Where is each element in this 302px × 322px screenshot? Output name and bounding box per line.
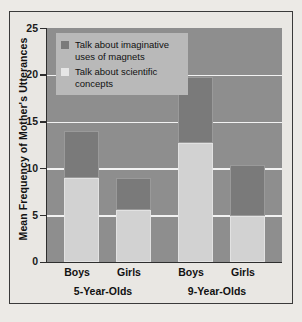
legend-item-imaginative: Talk about imaginative uses of magnets <box>61 39 182 62</box>
x-label-5yr-girls: Girls <box>104 266 154 278</box>
legend-swatch-light-icon <box>61 68 69 76</box>
bar-segment-imaginative <box>116 178 151 210</box>
legend-swatch-dark-icon <box>61 41 69 49</box>
y-tick-label: 25 <box>16 22 38 34</box>
bar-segment-imaginative <box>64 131 99 178</box>
figure: Mean Frequency of Mother's Utterances 25… <box>0 0 302 322</box>
bar-5yr-boys[interactable] <box>64 131 99 262</box>
bar-segment-scientific <box>64 178 99 262</box>
legend-item-scientific: Talk about scientific concepts <box>61 66 182 89</box>
legend: Talk about imaginative uses of magnets T… <box>56 33 188 95</box>
bar-segment-scientific <box>116 210 151 262</box>
y-tick-label: 15 <box>16 115 38 127</box>
group-label-9-year-olds: 9-Year-Olds <box>167 285 267 297</box>
bar-segment-imaginative <box>230 165 265 216</box>
y-tick-label: 20 <box>16 68 38 80</box>
bar-segment-scientific <box>230 216 265 262</box>
x-label-9yr-boys: Boys <box>166 266 216 278</box>
legend-label: Talk about imaginative uses of magnets <box>75 39 169 62</box>
group-label-5-year-olds: 5-Year-Olds <box>53 285 153 297</box>
bar-9yr-boys[interactable] <box>178 77 213 262</box>
y-tick-label: 0 <box>16 255 38 267</box>
bar-segment-scientific <box>178 143 213 262</box>
legend-label-line2: concepts <box>75 78 113 89</box>
gridline <box>47 122 282 124</box>
legend-label-line2: uses of magnets <box>75 51 145 62</box>
bar-5yr-girls[interactable] <box>116 178 151 262</box>
legend-label: Talk about scientific concepts <box>75 66 157 89</box>
x-label-5yr-boys: Boys <box>52 266 102 278</box>
legend-label-line1: Talk about imaginative <box>75 39 169 50</box>
bar-9yr-girls[interactable] <box>230 165 265 262</box>
x-label-9yr-girls: Girls <box>218 266 268 278</box>
legend-label-line1: Talk about scientific <box>75 66 157 77</box>
y-tick-label: 10 <box>16 162 38 174</box>
y-axis-labels: 25 20 15 10 5 0 <box>12 0 38 322</box>
y-tick-label: 5 <box>16 209 38 221</box>
